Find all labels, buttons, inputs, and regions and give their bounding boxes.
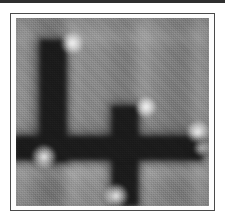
horizontal-bar-taper <box>184 142 206 155</box>
figure-container <box>10 13 215 211</box>
main-horizontal-bar <box>16 136 202 160</box>
page-top-rule <box>0 0 225 3</box>
scan-image-plate <box>16 18 209 206</box>
